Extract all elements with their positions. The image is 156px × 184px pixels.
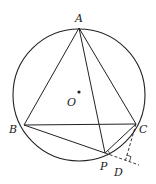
right-angle-mark-d bbox=[127, 155, 132, 162]
segment-ac bbox=[79, 28, 136, 124]
label-o: O bbox=[67, 96, 76, 109]
label-d: D bbox=[113, 166, 123, 179]
segment-bc bbox=[24, 124, 136, 125]
label-p: P bbox=[99, 160, 108, 173]
label-c: C bbox=[139, 123, 148, 136]
label-a: A bbox=[74, 12, 83, 25]
center-point-o bbox=[77, 90, 80, 93]
segment-ab bbox=[24, 28, 79, 125]
segment-bp bbox=[24, 125, 105, 153]
geometry-diagram: A O B C P D bbox=[0, 0, 156, 184]
label-b: B bbox=[8, 123, 17, 136]
segment-pd-dashed bbox=[105, 153, 139, 165]
circle-o bbox=[13, 29, 145, 161]
segment-ap bbox=[79, 28, 105, 153]
